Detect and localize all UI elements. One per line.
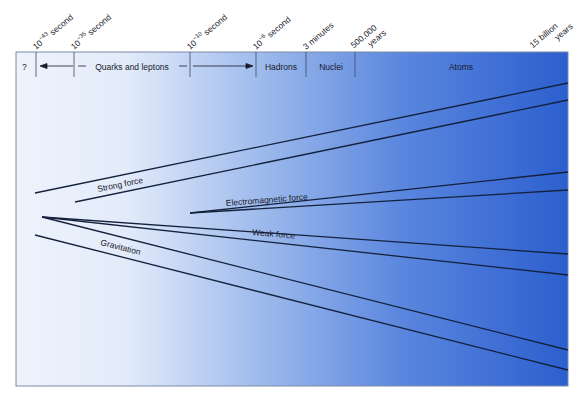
diagram-panel bbox=[16, 52, 568, 386]
svg-text:10−35 second: 10−35 second bbox=[68, 11, 113, 51]
time-label-3-minutes: 3 minutes bbox=[301, 20, 336, 51]
era-unknown-label: ? bbox=[22, 62, 27, 72]
time-label-1e-43: 10−43 second bbox=[30, 11, 75, 51]
era-nuclei-label: Nuclei bbox=[319, 62, 343, 72]
svg-text:10−6 second: 10−6 second bbox=[250, 13, 293, 51]
time-label-1e-10: 10−10 second bbox=[184, 11, 229, 51]
forces-diagram: ? Quarks and leptons Hadrons Nuclei Atom… bbox=[0, 0, 582, 402]
svg-text:10−43 second: 10−43 second bbox=[30, 11, 75, 51]
era-hadrons-label: Hadrons bbox=[265, 62, 297, 72]
time-label-1e-6: 10−6 second bbox=[250, 13, 293, 51]
svg-text:10−10 second: 10−10 second bbox=[184, 11, 229, 51]
time-label-15-billion-years: 15 billion years bbox=[528, 14, 575, 58]
time-label-1e-35: 10−35 second bbox=[68, 11, 113, 51]
era-atoms-label: Atoms bbox=[449, 62, 473, 72]
svg-text:3 minutes: 3 minutes bbox=[301, 20, 336, 51]
era-quarks-leptons-label: Quarks and leptons bbox=[95, 62, 169, 72]
